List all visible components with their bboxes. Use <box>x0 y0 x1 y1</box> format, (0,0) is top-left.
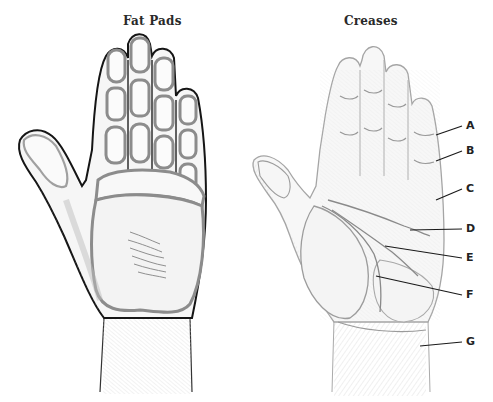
palm-pads <box>92 170 205 312</box>
callout-label-f: F <box>466 288 474 301</box>
callout-label-g: G <box>466 335 475 348</box>
callout-label-a: A <box>466 119 475 132</box>
callout-label-d: D <box>466 222 475 235</box>
hand-illustrations <box>0 0 493 402</box>
callout-label-b: B <box>466 144 474 157</box>
hand-creases <box>253 47 462 396</box>
callout-label-c: C <box>466 182 474 195</box>
callout-line-g <box>420 342 462 346</box>
hand-fat-pads <box>19 34 206 394</box>
callout-label-e: E <box>466 251 474 264</box>
